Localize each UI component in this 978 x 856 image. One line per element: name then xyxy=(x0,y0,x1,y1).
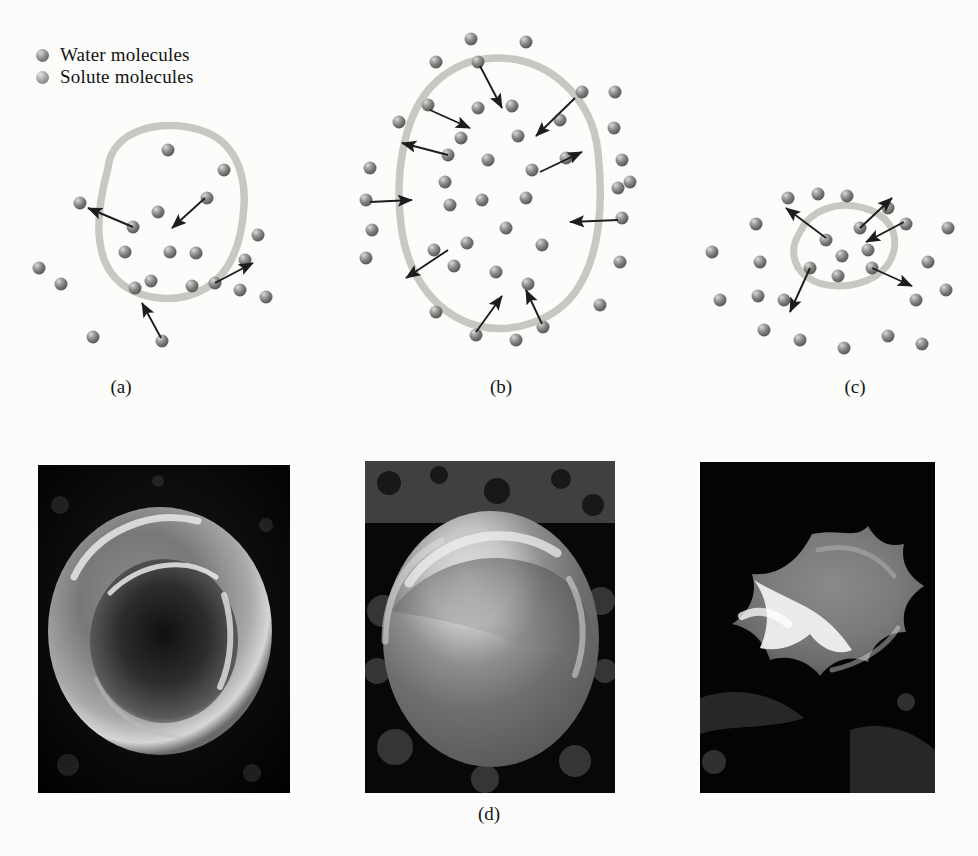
panel-caption-d: (d) xyxy=(0,803,978,825)
molecules-inside-a xyxy=(119,206,222,295)
micrograph-normal-cell xyxy=(38,465,290,793)
diagram-row: (a) xyxy=(0,0,978,420)
molecules-inside-b xyxy=(428,100,573,291)
molecules-outside-c xyxy=(706,188,955,355)
micrograph-row: (d) xyxy=(0,455,978,855)
micrograph-crenated-cell xyxy=(700,462,935,793)
cell-membrane-b xyxy=(399,58,600,328)
micrograph-swollen-cell xyxy=(365,461,615,793)
panel-caption-b: (b) xyxy=(336,376,666,398)
panel-hypotonic: (b) xyxy=(330,0,660,420)
panel-hypertonic: (c) xyxy=(660,0,978,420)
panel-b-illustration xyxy=(330,0,660,380)
panel-c-illustration xyxy=(660,0,978,380)
panel-a-illustration xyxy=(0,0,330,380)
panel-isotonic: (a) xyxy=(0,0,330,420)
panel-caption-c: (c) xyxy=(696,376,978,398)
panel-caption-a: (a) xyxy=(0,376,286,398)
